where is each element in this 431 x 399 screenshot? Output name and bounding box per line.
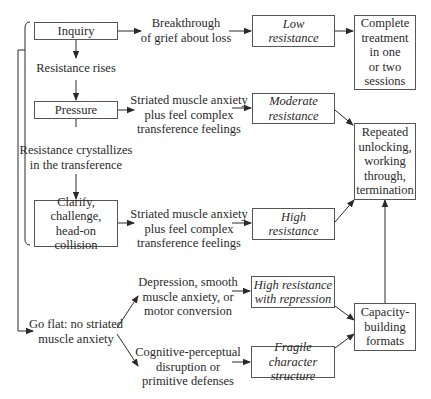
complete-treatment-label: Complete treatment in one or two session… [361, 16, 410, 89]
high-resistance-repression-label: High resistance with repression [254, 278, 332, 307]
low-resistance-label: Low resistance [268, 17, 318, 46]
high-resistance-box: High resistance [252, 208, 335, 240]
clarify-box: Clarify, challenge, head-on collision [34, 200, 118, 247]
high-resistance-label: High resistance [268, 210, 318, 239]
inquiry-box: Inquiry [34, 22, 118, 40]
breakthrough-label: Breakthrough of grief about loss [136, 16, 236, 45]
resistance-rises-label: Resistance rises [20, 61, 132, 76]
pressure-box: Pressure [34, 101, 118, 119]
striated-anxiety-label-1: Striated muscle anxiety plus feel comple… [124, 93, 254, 137]
low-resistance-box: Low resistance [252, 15, 335, 47]
go-flat-label: Go flat: no striated muscle anxiety [28, 317, 124, 346]
depression-label: Depression, smooth muscle anxiety, or mo… [128, 275, 248, 319]
resistance-crystallizes-label: Resistance crystallizes in the transfere… [6, 143, 146, 172]
high-resistance-repression-box: High resistance with repression [251, 276, 335, 308]
capacity-building-box: Capacity- building formats [354, 303, 416, 351]
inquiry-label: Inquiry [58, 24, 95, 39]
capacity-building-label: Capacity- building formats [361, 305, 410, 349]
striated-anxiety-label-2: Striated muscle anxiety plus feel comple… [124, 207, 254, 251]
moderate-resistance-box: Moderate resistance [252, 93, 335, 124]
cognitive-disruption-label: Cognitive-perceptual disruption or primi… [128, 345, 248, 389]
clarify-label: Clarify, challenge, head-on collision [35, 195, 117, 253]
complete-treatment-box: Complete treatment in one or two session… [354, 15, 416, 90]
repeated-unlocking-box: Repeated unlocking, working through, ter… [354, 123, 416, 200]
moderate-resistance-label: Moderate resistance [268, 94, 318, 123]
brace-bracket [25, 22, 30, 245]
repeated-unlocking-label: Repeated unlocking, working through, ter… [356, 125, 414, 198]
pressure-label: Pressure [55, 103, 97, 118]
fragile-character-label: Fragile character structure [252, 340, 334, 384]
fragile-character-box: Fragile character structure [251, 346, 335, 378]
